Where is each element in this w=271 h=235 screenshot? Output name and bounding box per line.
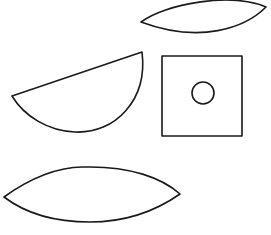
shapes-svg	[0, 0, 271, 235]
bottom-lens-shape	[4, 167, 180, 222]
square-shape	[162, 56, 242, 136]
top-lens-shape	[141, 0, 266, 32]
shapes-diagram	[0, 0, 271, 235]
inner-circle-shape	[192, 82, 214, 104]
half-disk-shape	[12, 52, 143, 132]
